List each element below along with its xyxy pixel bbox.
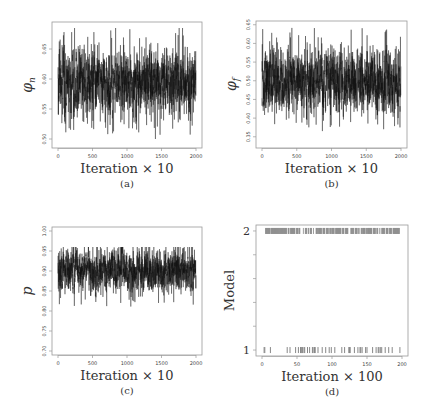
x-axis-title: Iteration × 10 bbox=[80, 161, 173, 176]
y-tick-label: 0.55 bbox=[41, 103, 47, 114]
y-tick-label: 0.40 bbox=[245, 113, 251, 124]
y-axis: 12 bbox=[243, 225, 256, 357]
x-axis-title: Iteration × 100 bbox=[281, 369, 383, 384]
y-axis-title: φn bbox=[19, 77, 37, 93]
x-tick-label: 500 bbox=[292, 153, 302, 159]
x-tick-label: 2000 bbox=[190, 153, 203, 159]
trace-line bbox=[58, 247, 196, 307]
y-tick-label: 0.85 bbox=[41, 285, 47, 296]
y-tick-label: 0.35 bbox=[245, 131, 251, 142]
x-axis-title: Iteration × 10 bbox=[285, 161, 378, 176]
y-tick-label: 0.50 bbox=[245, 75, 251, 86]
panel-caption: (d) bbox=[325, 386, 339, 397]
y-tick-label: 0.90 bbox=[41, 265, 47, 276]
x-tick-label: 0 bbox=[260, 153, 263, 159]
panel-a-phi-n-trace: 05001000150020000.500.550.600.65Iteratio… bbox=[0, 0, 214, 206]
y-tick-label: 0.50 bbox=[41, 133, 47, 144]
y-axis-title: p bbox=[19, 286, 35, 295]
y-axis: 0.700.750.800.850.900.951.00 bbox=[41, 225, 52, 356]
panel-b-phi-f-trace: 05001000150020000.350.400.450.500.550.60… bbox=[214, 0, 428, 206]
x-axis: 0500100015002000 bbox=[260, 148, 407, 159]
x-tick-label: 0 bbox=[56, 360, 59, 366]
x-tick-label: 1500 bbox=[360, 153, 373, 159]
x-axis: 0500100015002000 bbox=[56, 355, 202, 366]
plot-frame bbox=[256, 225, 408, 356]
y-tick-label: 0.45 bbox=[245, 94, 251, 105]
panel-c-p-trace: 05001000150020000.700.750.800.850.900.95… bbox=[0, 206, 214, 412]
x-tick-label: 200 bbox=[397, 361, 407, 367]
x-tick-label: 0 bbox=[260, 361, 263, 367]
panel-caption: (a) bbox=[120, 178, 134, 189]
x-axis: 050100150200 bbox=[260, 356, 406, 367]
x-tick-label: 500 bbox=[88, 153, 98, 159]
y-tick-label: 0.95 bbox=[41, 245, 47, 256]
x-tick-label: 500 bbox=[88, 360, 98, 366]
trace-line bbox=[262, 28, 401, 131]
y-tick-label: 0.65 bbox=[41, 43, 47, 54]
y-tick-label: 1.00 bbox=[41, 225, 47, 236]
y-tick-label: 0.65 bbox=[245, 19, 251, 30]
y-axis: 0.350.400.450.500.550.600.65 bbox=[245, 19, 256, 142]
panel-d-model-trace: 05010015020012Iteration × 100(d)Model bbox=[214, 206, 428, 412]
y-tick-label: 0.60 bbox=[245, 38, 251, 49]
chart-c: 05001000150020000.700.750.800.850.900.95… bbox=[0, 206, 214, 412]
x-tick-label: 0 bbox=[56, 153, 59, 159]
y-axis-title: Model bbox=[222, 270, 237, 311]
trace-line bbox=[58, 28, 196, 139]
y-tick-label: 1 bbox=[243, 344, 250, 357]
y-tick-label: 0.75 bbox=[41, 325, 47, 336]
y-axis-title: φf bbox=[223, 76, 241, 91]
x-tick-label: 1000 bbox=[121, 360, 134, 366]
x-tick-label: 1500 bbox=[155, 360, 168, 366]
y-axis: 0.500.550.600.65 bbox=[41, 43, 52, 144]
x-tick-label: 150 bbox=[362, 361, 372, 367]
x-axis: 0500100015002000 bbox=[56, 148, 202, 159]
x-tick-label: 1000 bbox=[325, 153, 338, 159]
x-tick-label: 1500 bbox=[155, 153, 168, 159]
chart-d: 05010015020012Iteration × 100(d)Model bbox=[214, 206, 428, 412]
chart-a: 05001000150020000.500.550.600.65Iteratio… bbox=[0, 0, 214, 206]
y-tick-label: 2 bbox=[243, 225, 250, 238]
x-tick-label: 100 bbox=[327, 361, 337, 367]
panel-caption: (c) bbox=[120, 385, 134, 396]
x-tick-label: 2000 bbox=[395, 153, 408, 159]
y-tick-label: 0.60 bbox=[41, 73, 47, 84]
y-tick-label: 0.80 bbox=[41, 305, 47, 316]
y-tick-label: 0.55 bbox=[245, 57, 251, 68]
model-marks bbox=[264, 228, 401, 353]
x-tick-label: 2000 bbox=[190, 360, 203, 366]
x-axis-title: Iteration × 10 bbox=[80, 368, 173, 383]
chart-b: 05001000150020000.350.400.450.500.550.60… bbox=[214, 0, 428, 206]
x-tick-label: 1000 bbox=[121, 153, 134, 159]
y-tick-label: 0.70 bbox=[41, 345, 47, 356]
x-tick-label: 50 bbox=[294, 361, 300, 367]
panel-caption: (b) bbox=[324, 178, 338, 189]
